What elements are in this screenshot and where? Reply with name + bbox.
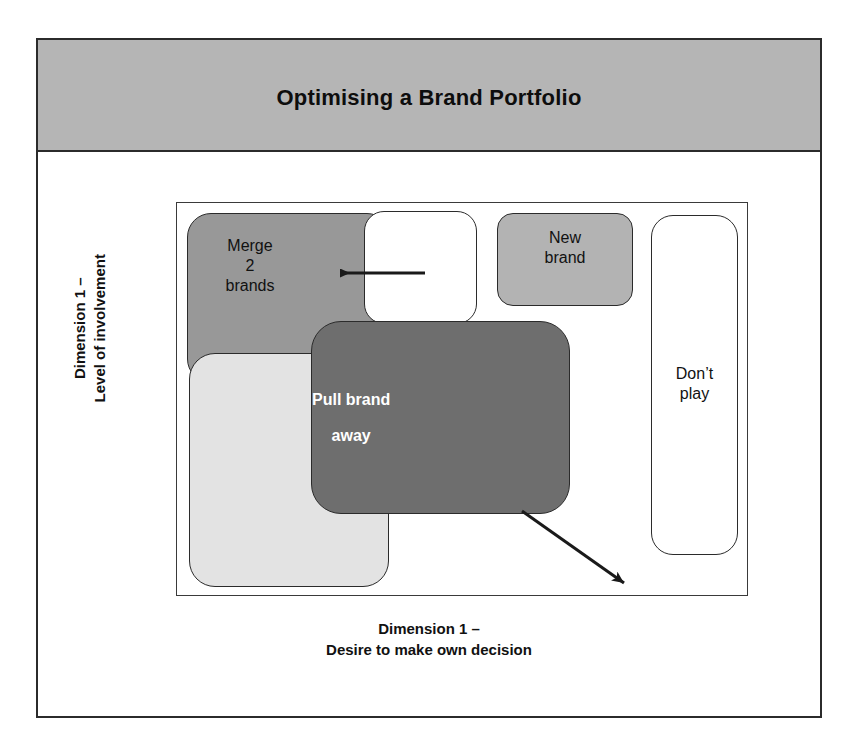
pull-away-arrow-icon: [522, 511, 624, 583]
box-merge-label-line2: 2: [246, 257, 255, 274]
y-axis-label: Dimension 1 – Level of involvement: [70, 203, 111, 453]
x-axis-label-line1: Dimension 1 –: [38, 618, 820, 639]
box-white-inner[interactable]: [364, 211, 477, 324]
box-pull-label-line2: away: [332, 427, 371, 444]
box-dont-play-label-line1: Don’t: [676, 365, 713, 382]
box-pull-brand-away[interactable]: Pull brand away: [311, 321, 570, 514]
box-merge-label-line1: Merge: [227, 237, 272, 254]
box-new-brand-label-line2: brand: [545, 249, 586, 266]
box-dont-play-label: Don’t play: [676, 216, 713, 404]
box-dont-play-label-line2: play: [680, 385, 709, 402]
box-new-brand-label: New brand: [545, 214, 586, 268]
page-title: Optimising a Brand Portfolio: [276, 79, 581, 111]
matrix-frame: Merge 2 brands New brand Don’t play: [176, 202, 748, 596]
x-axis-label-line2: Desire to make own decision: [38, 639, 820, 660]
x-axis-label: Dimension 1 – Desire to make own decisio…: [38, 618, 820, 660]
slide-frame: Optimising a Brand Portfolio Dimension 1…: [36, 38, 822, 718]
title-banner: Optimising a Brand Portfolio: [38, 40, 820, 152]
y-axis-label-line1: Dimension 1 –: [70, 203, 90, 453]
box-new-brand[interactable]: New brand: [497, 213, 633, 306]
box-merge-2-brands-label: Merge 2 brands: [226, 214, 353, 296]
box-pull-label-line1: Pull brand: [312, 391, 390, 408]
box-dont-play[interactable]: Don’t play: [651, 215, 738, 555]
y-axis-label-line2: Level of involvement: [90, 203, 110, 453]
box-pull-brand-away-label: Pull brand away: [312, 382, 390, 452]
box-merge-label-line3: brands: [226, 277, 275, 294]
box-new-brand-label-line1: New: [549, 229, 581, 246]
